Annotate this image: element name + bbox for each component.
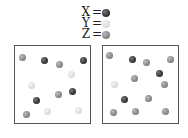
particle-x-icon [121,96,128,103]
particle-x-icon [129,56,136,63]
particle-z-icon [110,109,117,116]
particle-z-icon [132,108,139,115]
particle-z-icon [143,59,150,66]
particle-x-icon [156,70,163,77]
particle-z-icon [131,75,138,82]
particle-z-icon [56,61,63,68]
particle-z-icon [161,81,168,88]
particle-z-icon [19,54,26,61]
particle-y-icon [111,81,118,88]
particle-x-icon [102,9,110,17]
legend-row-z: Z = [74,29,110,40]
particle-z-icon [145,95,152,102]
particle-z-icon [162,108,169,115]
particle-x-icon [41,57,48,64]
particle-z-icon [106,52,113,59]
particle-y-icon [68,71,75,78]
particle-x-icon [80,57,87,64]
particle-z-icon [23,111,30,118]
legend-label-z: Z [74,29,92,40]
particle-z-icon [167,56,174,63]
particle-z-icon [55,91,62,98]
particle-x-icon [69,88,76,95]
legend-equals: = [92,29,100,40]
particle-y-icon [102,20,110,28]
particle-y-icon [44,108,51,115]
particle-z-icon [102,31,110,39]
particle-y-icon [75,107,82,114]
particle-x-icon [33,97,40,104]
particle-y-icon [28,82,35,89]
